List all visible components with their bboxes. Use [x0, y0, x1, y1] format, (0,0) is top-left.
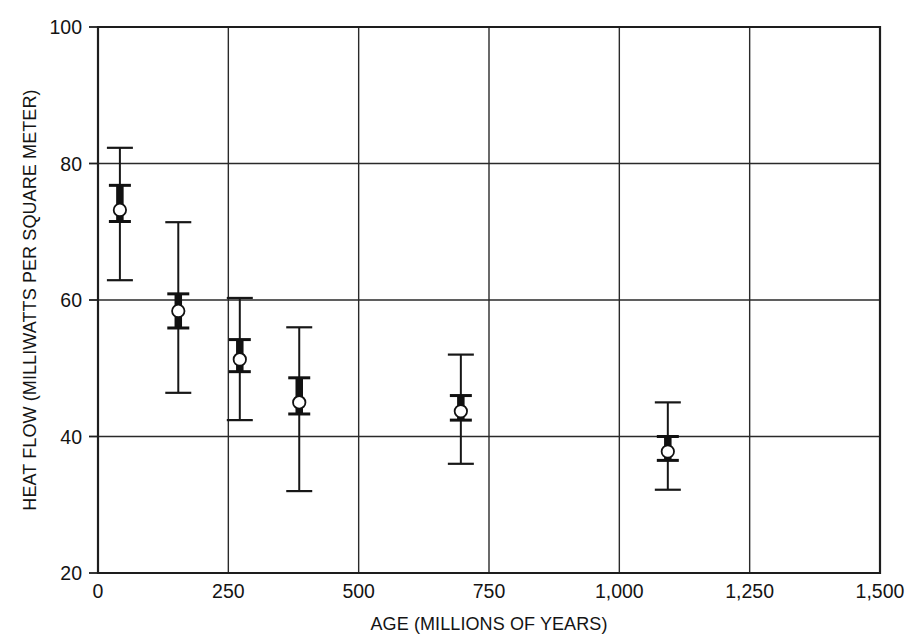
x-ticklabel: 500 — [342, 580, 375, 602]
y-axis-ticklabels: 20406080100 — [49, 16, 82, 584]
plot-gridlines — [98, 27, 880, 573]
y-axis-title: HEAT FLOW (MILLIWATTS PER SQUARE METER) — [20, 89, 40, 510]
x-ticklabel: 1,000 — [595, 580, 644, 602]
data-point — [227, 298, 253, 420]
data-point-marker — [172, 305, 184, 317]
x-ticklabel: 750 — [473, 580, 506, 602]
data-point — [107, 148, 133, 280]
data-point — [448, 355, 474, 464]
y-ticklabel: 60 — [60, 289, 82, 311]
heat-flow-vs-age-chart: 02505007501,0001,2501,500 20406080100 AG… — [0, 0, 919, 639]
chart-svg: 02505007501,0001,2501,500 20406080100 AG… — [0, 0, 919, 639]
data-point-marker — [114, 204, 126, 216]
x-ticklabel: 1,500 — [856, 580, 905, 602]
data-point-marker — [234, 353, 246, 365]
data-point — [165, 222, 191, 393]
x-axis-title: AGE (MILLIONS OF YEARS) — [370, 614, 607, 634]
data-point-marker — [293, 396, 305, 408]
y-axis-ticks — [89, 27, 98, 573]
x-ticklabel: 250 — [212, 580, 245, 602]
y-ticklabel: 80 — [60, 153, 82, 175]
data-point-marker — [662, 445, 674, 457]
x-axis-ticklabels: 02505007501,0001,2501,500 — [93, 580, 905, 602]
data-series-error-bars — [107, 148, 681, 491]
data-point-marker — [455, 405, 467, 417]
y-ticklabel: 40 — [60, 426, 82, 448]
x-ticklabel: 1,250 — [725, 580, 774, 602]
y-ticklabel: 20 — [60, 562, 82, 584]
y-ticklabel: 100 — [49, 16, 82, 38]
data-point — [286, 327, 312, 491]
data-point — [655, 402, 681, 489]
x-ticklabel: 0 — [93, 580, 104, 602]
